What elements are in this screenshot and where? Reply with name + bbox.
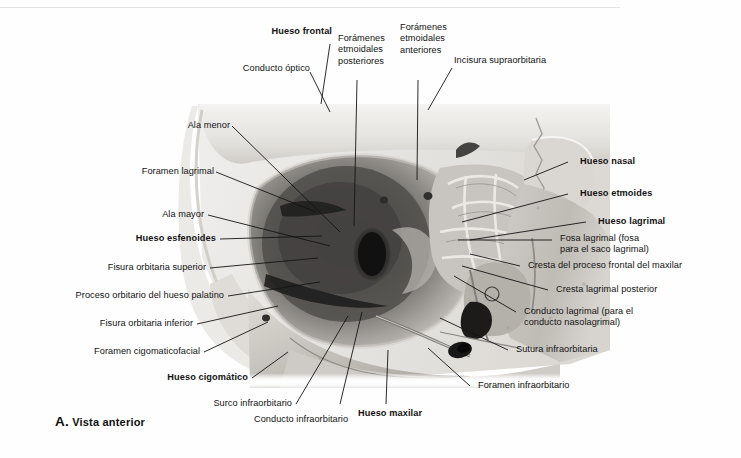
figure-caption: A. Vista anterior <box>55 414 145 429</box>
label-foramen-cigomaticofacial: Foramen cigomaticofacial <box>40 346 200 357</box>
label-foramen-infraorbitario: Foramen infraorbitario <box>478 380 648 391</box>
label-cresta-lagrimal-posterior: Cresta lagrimal posterior <box>556 284 738 295</box>
figure-caption-text: Vista anterior <box>72 416 145 428</box>
label-foramen-lagrimal: Foramen lagrimal <box>70 166 214 177</box>
label-foramenes-etmoidales-anteriores: Forámenes etmoidales anteriores <box>400 22 466 56</box>
label-fisura-orbitaria-superior: Fisura orbitaria superior <box>56 262 206 273</box>
label-incisura-supraorbitaria: Incisura supraorbitaria <box>454 55 594 66</box>
label-proceso-orbitario-hueso-palatino: Proceso orbitario del hueso palatino <box>18 290 224 301</box>
label-hueso-lagrimal: Hueso lagrimal <box>598 216 738 227</box>
label-surco-infraorbitario: Surco infraorbitario <box>168 398 292 409</box>
label-conducto-lagrimal: Conducto lagrimal (para el conducto naso… <box>524 306 724 329</box>
top-divider-rule <box>0 7 620 8</box>
label-fosa-lagrimal: Fosa lagrimal (fosa para el saco lagrima… <box>560 233 738 256</box>
label-sutura-infraorbitaria: Sutura infraorbitaria <box>516 344 676 355</box>
figure-caption-letter: A. <box>55 414 69 429</box>
label-hueso-etmoides: Hueso etmoides <box>580 188 730 199</box>
label-foramenes-etmoidales-posteriores: Forámenes etmoidales posteriores <box>338 33 404 67</box>
label-ala-menor: Ala menor <box>112 120 230 131</box>
label-cresta-proceso-frontal-maxilar: Cresta del proceso frontal del maxilar <box>528 260 740 271</box>
label-conducto-optico: Conducto óptico <box>130 63 310 74</box>
figure-page: Conducto óptico Hueso frontal Forámenes … <box>0 0 741 458</box>
label-hueso-nasal: Hueso nasal <box>580 156 720 167</box>
label-hueso-cigomatico: Hueso cigomático <box>118 372 248 383</box>
label-ala-mayor: Ala mayor <box>100 209 204 220</box>
label-hueso-maxilar: Hueso maxilar <box>358 408 468 419</box>
label-fisura-orbitaria-inferior: Fisura orbitaria inferior <box>48 318 193 329</box>
label-hueso-frontal: Hueso frontal <box>200 26 332 37</box>
label-hueso-esfenoides: Hueso esfenoides <box>50 233 216 244</box>
